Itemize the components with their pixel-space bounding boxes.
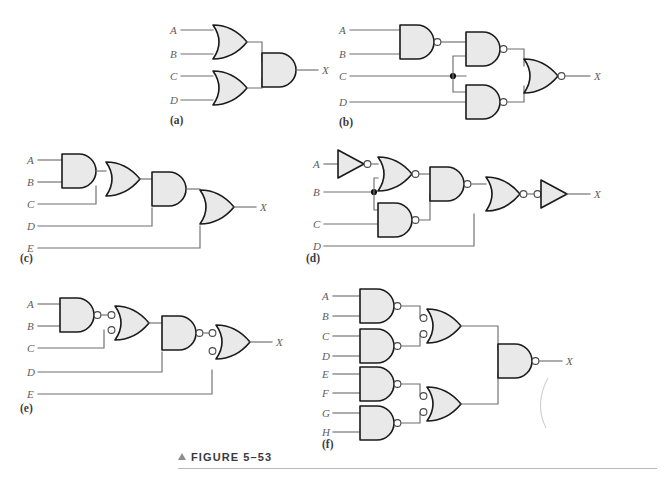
panel-f-wire-nandab-to-negor — [401, 306, 420, 318]
panel-d-bubble-nor-top — [412, 171, 419, 178]
panel-f: A B C D E F G H — [321, 289, 574, 451]
panel-e-wire-D — [38, 352, 162, 372]
panel-f-nand-gate-cd — [360, 329, 401, 363]
panel-a-wire-or1-to-and — [247, 42, 262, 62]
caption-triangle-icon — [178, 453, 186, 460]
panel-e-nand-gate-ab — [60, 298, 101, 332]
panel-d-bubble-nor-d — [520, 191, 527, 198]
panel-f-wire-nandgh-to-negor — [401, 412, 420, 423]
panel-e-neg-or-gate-out — [209, 325, 250, 359]
panel-e-input-label-D: D — [26, 366, 35, 378]
panel-f-nand-gate-ab — [360, 289, 401, 323]
panel-f-label: (f) — [322, 438, 334, 451]
panel-f-input-label-H: H — [321, 426, 331, 438]
logic-circuit-figure: A B C D X (a) A B C D — [0, 0, 667, 484]
panel-b-label: (b) — [339, 116, 353, 129]
panel-f-bubble-negor-top-in2 — [420, 331, 427, 338]
panel-b-nor-gate-out — [524, 59, 565, 93]
panel-f-neg-or-gate-bottom — [420, 387, 461, 421]
panel-d-bubble-nand-bc — [412, 217, 419, 224]
panel-a-label: (a) — [170, 114, 184, 127]
panel-d-nand-gate-bc — [378, 203, 419, 237]
panel-b-bubble-nor-out — [558, 73, 565, 80]
panel-d-inverter-a — [338, 150, 371, 178]
panel-b: A B C D — [338, 24, 602, 129]
panel-c-and-gate-d — [152, 172, 186, 206]
panel-f-neg-or-gate-top — [420, 309, 461, 343]
panel-a-input-label-B: B — [170, 48, 177, 60]
panel-f-input-label-D: D — [321, 350, 330, 362]
panel-d-input-label-B: B — [313, 186, 320, 198]
panel-e-output-label: X — [275, 336, 284, 348]
panel-f-input-label-F: F — [321, 387, 329, 399]
panel-d-nor-gate-d — [486, 177, 527, 211]
panel-b-nand-gate-ab — [400, 25, 441, 59]
panel-e-bubble-negor-c-in2 — [108, 327, 115, 334]
caption-rule — [178, 468, 657, 469]
panel-e-nand-gate-d — [162, 316, 203, 350]
panel-a-or-gate-cd — [213, 71, 247, 105]
panel-e-wire-E — [38, 370, 212, 394]
panel-f-output-label: X — [565, 355, 574, 367]
panel-c-input-label-C: C — [27, 198, 35, 210]
panel-c-input-label-D: D — [26, 220, 35, 232]
panel-b-nand-gate-bottom — [466, 85, 507, 119]
panel-d: A B C D — [306, 150, 602, 265]
panel-c-and-gate-ab — [62, 154, 96, 188]
panel-c-or-gate-out — [200, 190, 234, 224]
panel-c-input-label-B: B — [27, 176, 34, 188]
panel-d-bubble-inverter-out-input — [534, 191, 541, 198]
panel-d-nand-gate-mid — [430, 167, 471, 201]
panel-f-input-label-G: G — [322, 407, 330, 419]
panel-b-input-label-C: C — [339, 70, 347, 82]
panel-f-bubble-nand-gh — [394, 420, 401, 427]
panel-b-wire-bottom-to-nor — [507, 86, 524, 102]
panel-f-bubble-nand-ef — [394, 381, 401, 388]
panel-b-input-label-A: A — [338, 24, 346, 36]
panel-d-input-label-D: D — [312, 240, 321, 252]
panel-c: A B C D E X (c) — [20, 154, 268, 265]
panel-e-bubble-negor-c-in1 — [108, 312, 115, 319]
panel-a-input-label-D: D — [169, 94, 178, 106]
panel-b-wire-C-up — [453, 56, 466, 76]
panel-e-input-label-B: B — [27, 320, 34, 332]
panel-a-or-gate-ab — [213, 25, 247, 59]
panel-b-input-label-B: B — [339, 48, 346, 60]
panel-e-bubble-nand-d — [196, 330, 203, 337]
panel-f-input-label-E: E — [321, 368, 329, 380]
panel-e-bubble-nand-ab — [94, 312, 101, 319]
panel-d-label: (d) — [306, 252, 320, 265]
panel-c-label: (c) — [20, 252, 33, 265]
panel-b-bubble-nand-top — [500, 46, 507, 53]
panel-b-bubble-nand-bottom — [500, 99, 507, 106]
caption-label: FIGURE 5–53 — [191, 451, 272, 463]
panel-f-wire-negortop-to-nand — [461, 326, 498, 350]
panel-a-input-label-C: C — [170, 70, 178, 82]
panel-d-nor-gate-top — [378, 157, 419, 191]
panel-a-wire-or2-to-and — [247, 78, 262, 88]
panel-c-input-label-A: A — [26, 154, 34, 166]
panel-f-input-label-A: A — [321, 290, 329, 302]
panel-f-nand-gate-gh — [360, 406, 401, 440]
panel-f-nand-gate-ef — [360, 367, 401, 401]
panel-e: A B C D E — [20, 298, 284, 415]
panel-e-bubble-negor-out-in1 — [209, 330, 216, 337]
panel-d-input-label-A: A — [312, 158, 320, 170]
scan-artifact-curve — [540, 378, 548, 428]
panel-f-input-label-B: B — [322, 310, 329, 322]
panel-b-input-label-D: D — [338, 96, 347, 108]
figure-caption: FIGURE 5–53 — [178, 451, 508, 463]
panel-e-neg-or-gate-c — [108, 306, 149, 340]
panel-e-input-label-A: A — [26, 298, 34, 310]
panel-f-input-label-C: C — [322, 330, 330, 342]
panel-d-input-label-C: C — [313, 218, 321, 230]
panel-f-wire-nandcd-to-negor — [401, 334, 420, 346]
panel-f-wire-nandef-to-negor — [401, 384, 420, 396]
panel-b-bubble-nand-ab — [434, 39, 441, 46]
panel-f-bubble-negor-bottom-in2 — [420, 409, 427, 416]
panel-a-and-gate-out — [262, 53, 296, 87]
panel-d-output-label: X — [593, 188, 602, 200]
panel-d-bubble-nand-mid — [464, 181, 471, 188]
panel-a: A B C D X (a) — [169, 24, 330, 127]
panel-e-input-label-C: C — [27, 342, 35, 354]
